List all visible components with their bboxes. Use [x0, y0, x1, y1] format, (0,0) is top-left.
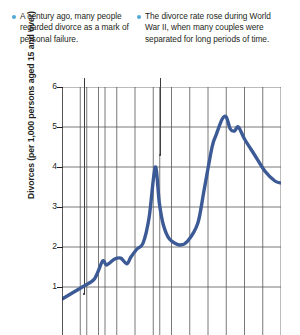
bullet-icon	[12, 15, 16, 19]
bullet-icon	[137, 15, 141, 19]
divorce-rate-chart-figure: A century ago, many people regarded divo…	[0, 0, 300, 335]
vertical-gridlines	[62, 87, 281, 335]
annotation-text: A century ago, many people regarded divo…	[20, 11, 130, 45]
chart-svg	[62, 87, 281, 335]
y-tick-label-5: 5	[43, 121, 57, 131]
y-tick-label-1: 1	[43, 281, 57, 291]
y-tick-label-3: 3	[43, 201, 57, 211]
y-tick-label-6: 6	[43, 81, 57, 91]
annotation-world-war-ii: The divorce rate rose during World War I…	[137, 11, 287, 45]
y-axis-label: Divorces (per 1,000 persons aged 15 and …	[26, 0, 36, 220]
y-tick-label-4: 4	[43, 161, 57, 171]
y-tick-label-2: 2	[43, 241, 57, 251]
plot-area	[62, 87, 281, 335]
annotation-text: The divorce rate rose during World War I…	[145, 11, 287, 45]
y-axis-ticks: 123456	[40, 0, 57, 335]
